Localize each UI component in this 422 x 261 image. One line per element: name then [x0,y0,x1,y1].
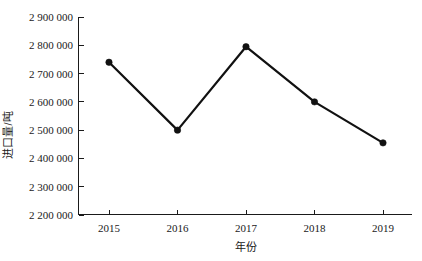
y-tick-label: 2 500 000 [29,124,74,136]
x-axis-title: 年份 [235,240,257,253]
y-tick-label: 2 600 000 [29,96,74,108]
x-tick-labels: 2015 2016 2017 2018 2019 [98,222,395,234]
y-tick-label: 2 300 000 [29,181,74,193]
x-tick-label: 2015 [98,222,121,234]
chart-page: 2 900 000 2 800 000 2 700 000 2 600 000 … [0,0,422,261]
y-tick-label: 2 400 000 [29,152,74,164]
series-line-import-volume [109,47,383,143]
y-tick-label: 2 200 000 [29,209,74,221]
y-tick-labels: 2 900 000 2 800 000 2 700 000 2 600 000 … [29,11,74,221]
data-point [311,99,317,105]
data-point [243,44,249,50]
line-chart-figure: 2 900 000 2 800 000 2 700 000 2 600 000 … [0,0,422,261]
y-tick-marks [79,17,85,215]
data-point [106,59,112,65]
y-tick-label: 2 700 000 [29,68,74,80]
series-markers [106,44,386,147]
x-tick-label: 2019 [372,222,395,234]
y-tick-label: 2 900 000 [29,11,74,23]
x-tick-label: 2018 [304,222,327,234]
y-axis-title: 进口量/吨 [2,111,14,158]
data-point [174,127,180,133]
x-tick-label: 2016 [167,222,190,234]
data-point [380,140,386,146]
chart-canvas: 2 900 000 2 800 000 2 700 000 2 600 000 … [0,0,422,261]
y-tick-label: 2 800 000 [29,39,74,51]
x-tick-label: 2017 [235,222,258,234]
